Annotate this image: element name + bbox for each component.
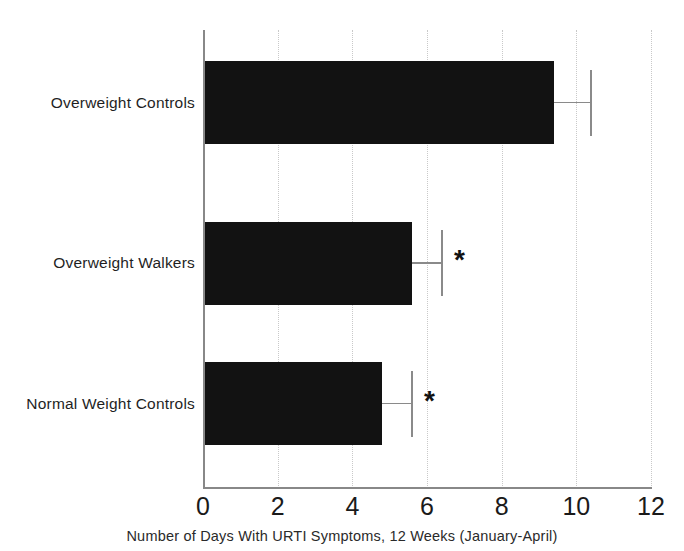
x-tick-label-12: 12 xyxy=(621,492,681,521)
x-axis-title: Number of Days With URTI Symptoms, 12 We… xyxy=(0,528,684,544)
category-label-normal-weight-controls: Normal Weight Controls xyxy=(26,395,195,413)
significance-star-2: * xyxy=(454,246,465,274)
y-axis-line xyxy=(203,30,205,489)
bar-overweight-walkers xyxy=(203,222,412,305)
significance-star-3: * xyxy=(424,387,435,415)
category-label-overweight-walkers: Overweight Walkers xyxy=(53,254,195,272)
urti-symptoms-bar-chart: ** Overweight ControlsOverweight Walkers… xyxy=(0,0,684,551)
x-tick-label-6: 6 xyxy=(397,492,457,521)
bar-overweight-controls xyxy=(203,61,554,144)
error-whisker-2 xyxy=(412,262,442,264)
x-tick-label-8: 8 xyxy=(472,492,532,521)
gridline-10 xyxy=(576,30,577,488)
x-tick-label-10: 10 xyxy=(546,492,606,521)
x-tick-label-4: 4 xyxy=(322,492,382,521)
bar-normal-weight-controls xyxy=(203,362,382,445)
x-tick-label-2: 2 xyxy=(248,492,308,521)
error-whisker-3 xyxy=(382,403,412,405)
category-label-overweight-controls: Overweight Controls xyxy=(51,94,195,112)
error-whisker-1 xyxy=(554,102,591,104)
gridline-12 xyxy=(651,30,652,488)
x-tick-label-0: 0 xyxy=(173,492,233,521)
error-cap-3 xyxy=(411,371,413,437)
error-cap-2 xyxy=(441,230,443,296)
error-cap-1 xyxy=(590,70,592,136)
x-axis-line xyxy=(203,487,652,489)
plot-area: ** xyxy=(203,30,651,488)
